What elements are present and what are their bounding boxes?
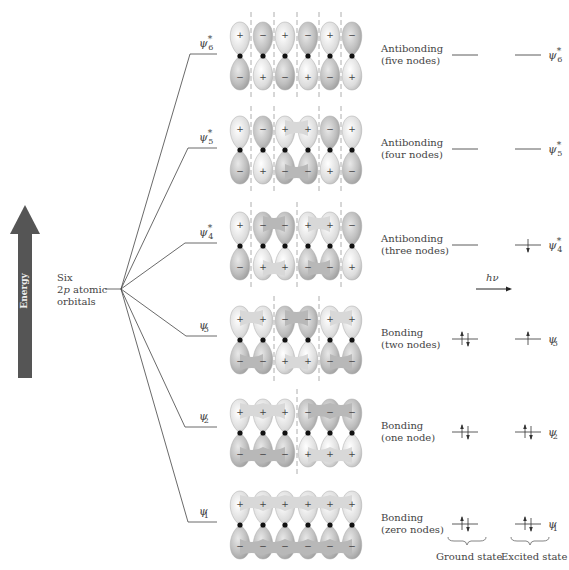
sign-top: −	[259, 124, 267, 134]
sign-bottom: −	[236, 449, 244, 459]
sign-top: −	[348, 220, 356, 230]
psi-right-psi2: ψ2	[548, 423, 558, 441]
psi-right-psi6: ψ*6	[548, 46, 562, 64]
orbital-row-psi1: +−+−+−+−+−+−	[230, 491, 362, 559]
sign-top: +	[348, 499, 356, 509]
level-desc-psi3: Bonding (two nodes)	[381, 327, 441, 351]
psi-left-psi5: ψ*5	[199, 128, 213, 146]
psi-index: 5	[557, 149, 562, 158]
sign-top: +	[236, 499, 244, 509]
psi-symbol: ψ	[548, 143, 557, 156]
sign-bottom: −	[281, 449, 289, 459]
sign-top: −	[259, 220, 267, 230]
energy-levels	[452, 55, 541, 532]
electron-down-icon	[529, 435, 533, 440]
sign-bottom: +	[281, 356, 289, 366]
psi-symbol: ψ	[199, 131, 208, 144]
sign-top: +	[259, 407, 267, 417]
psi-index: 3	[553, 339, 558, 348]
photon-label: hν	[486, 272, 499, 283]
orbital-row-psi2: +−+−+−−+−+−+	[230, 389, 362, 477]
electron-down-icon	[529, 527, 533, 532]
psi-index: 1	[553, 524, 558, 533]
sign-bottom: −	[236, 541, 244, 551]
level-desc-psi6: Antibonding (five nodes)	[381, 43, 443, 67]
psi-symbol: ψ	[199, 37, 208, 50]
sign-bottom: −	[326, 356, 334, 366]
electron-up-icon	[460, 424, 464, 429]
electron-down-icon	[466, 527, 470, 532]
sign-bottom: +	[348, 449, 356, 459]
psi-index: 1	[204, 511, 209, 520]
sign-top: −	[326, 407, 334, 417]
bond-type: Antibonding	[381, 43, 443, 55]
sign-top: +	[236, 30, 244, 40]
sign-top: +	[281, 124, 289, 134]
sign-bottom: +	[281, 262, 289, 272]
mo-diagram: +−−++−−++−−++−−++−+−−++−+−−+−++−+−−++−+−…	[0, 0, 569, 570]
psi-right-psi5: ψ*5	[548, 140, 562, 158]
psi-left-psi2: ψ2	[199, 407, 209, 425]
sign-top: +	[236, 220, 244, 230]
sign-bottom: −	[304, 166, 312, 176]
node-count: (five nodes)	[381, 55, 443, 67]
sign-bottom: +	[259, 166, 267, 176]
sign-top: −	[348, 30, 356, 40]
psi-right-psi1: ψ1	[548, 515, 558, 533]
sign-top: +	[348, 314, 356, 324]
psi-index: 6	[557, 55, 562, 64]
psi-right-psi4: ψ*4	[548, 236, 562, 254]
sign-top: +	[348, 124, 356, 134]
sign-bottom: +	[326, 166, 334, 176]
psi-symbol: ψ	[548, 49, 557, 62]
psi-left-psi1: ψ1	[199, 502, 209, 520]
sign-bottom: −	[281, 166, 289, 176]
electron-up-icon	[460, 331, 464, 336]
electron-down-icon	[466, 342, 470, 347]
psi-symbol: ψ	[199, 226, 208, 239]
photon-arrow	[476, 287, 512, 292]
sign-top: −	[304, 30, 312, 40]
sign-bottom: −	[259, 449, 267, 459]
electron-up-icon	[523, 424, 527, 429]
sign-top: −	[348, 407, 356, 417]
level-desc-psi1: Bonding (zero nodes)	[381, 512, 444, 536]
sign-top: +	[326, 30, 334, 40]
electron-up-icon	[526, 331, 530, 336]
sign-bottom: −	[281, 541, 289, 551]
electron-down-icon	[466, 435, 470, 440]
psi-index: 5	[208, 137, 213, 146]
psi-symbol: ψ	[548, 239, 557, 252]
psi-index: 3	[204, 325, 209, 334]
sign-top: −	[281, 314, 289, 324]
level-desc-psi2: Bonding (one node)	[381, 420, 435, 444]
sign-bottom: +	[326, 449, 334, 459]
sign-bottom: −	[236, 262, 244, 272]
sign-bottom: −	[304, 541, 312, 551]
sign-bottom: −	[259, 541, 267, 551]
node-count: (two nodes)	[381, 339, 441, 351]
sign-bottom: −	[348, 166, 356, 176]
sign-top: +	[326, 499, 334, 509]
node-count: (one node)	[381, 432, 435, 444]
sign-bottom: −	[281, 72, 289, 82]
bond-type: Antibonding	[381, 137, 443, 149]
node-count: (zero nodes)	[381, 524, 444, 536]
sign-bottom: −	[326, 72, 334, 82]
sign-top: +	[304, 124, 312, 134]
sign-top: +	[259, 314, 267, 324]
psi-left-psi4: ψ*4	[199, 223, 213, 241]
sign-bottom: −	[236, 166, 244, 176]
electron-up-icon	[460, 516, 464, 521]
sign-top: +	[236, 314, 244, 324]
bond-type: Bonding	[381, 512, 444, 524]
ground-state-label: Ground state	[436, 551, 502, 563]
sign-bottom: −	[304, 262, 312, 272]
sign-top: +	[281, 30, 289, 40]
sign-top: −	[304, 407, 312, 417]
node-count: (three nodes)	[381, 245, 449, 257]
sign-bottom: −	[259, 356, 267, 366]
sign-bottom: −	[236, 72, 244, 82]
excited-state-label: Excited state	[501, 551, 567, 563]
sign-bottom: −	[348, 541, 356, 551]
